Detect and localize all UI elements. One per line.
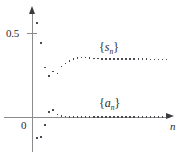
data-point — [40, 42, 42, 44]
data-point — [113, 58, 115, 60]
data-point — [154, 116, 156, 118]
data-point — [121, 116, 123, 118]
data-point — [77, 57, 79, 59]
data-point — [69, 60, 71, 62]
data-point — [138, 58, 140, 60]
data-point — [77, 116, 79, 118]
data-point — [129, 58, 131, 60]
data-point — [57, 73, 59, 75]
data-point — [109, 58, 111, 60]
data-point — [138, 116, 140, 118]
data-point — [85, 57, 87, 59]
data-point — [65, 63, 67, 65]
data-point — [40, 136, 42, 138]
data-point — [105, 116, 107, 118]
data-point — [117, 58, 119, 60]
data-point — [48, 111, 50, 113]
series-label-sn: {sn} — [99, 40, 119, 56]
data-point — [105, 58, 107, 60]
data-point — [158, 59, 160, 61]
data-point — [113, 116, 115, 118]
data-point — [44, 67, 46, 69]
data-point — [117, 116, 119, 118]
data-point — [158, 116, 160, 118]
data-point — [81, 57, 83, 59]
data-point — [101, 116, 103, 118]
data-point — [93, 58, 95, 60]
data-point — [52, 71, 54, 73]
data-point — [85, 116, 87, 118]
data-point — [73, 116, 75, 118]
data-point — [142, 116, 144, 118]
data-point — [73, 58, 75, 60]
data-point — [65, 116, 67, 118]
data-point — [97, 58, 99, 60]
data-point — [146, 58, 148, 60]
data-point — [129, 116, 131, 118]
data-point — [133, 58, 135, 60]
data-point — [89, 57, 91, 59]
data-point — [89, 116, 91, 118]
y-axis-arrow-icon — [29, 6, 35, 14]
y-axis-tick-half — [27, 33, 37, 34]
data-point — [44, 124, 46, 126]
data-point — [101, 58, 103, 60]
data-point — [125, 58, 127, 60]
data-point — [52, 109, 54, 111]
sn-close-brace: } — [113, 40, 119, 54]
data-point — [162, 116, 164, 118]
data-point — [142, 58, 144, 60]
data-point — [69, 116, 71, 118]
data-point — [93, 116, 95, 118]
data-point — [125, 116, 127, 118]
data-point — [97, 116, 99, 118]
y-tick-label-0: 0 — [21, 119, 26, 131]
data-point — [61, 66, 63, 68]
an-close-brace: } — [115, 96, 121, 110]
data-point — [121, 58, 123, 60]
sequence-scatter-plot: 0.5 0 n {sn} {an} — [0, 0, 184, 155]
data-point — [109, 116, 111, 118]
data-point — [146, 116, 148, 118]
data-point — [57, 114, 59, 116]
y-tick-label-0-5: 0.5 — [6, 27, 19, 39]
data-point — [150, 116, 152, 118]
series-label-an: {an} — [99, 96, 120, 112]
data-point — [150, 59, 152, 61]
data-point — [162, 59, 164, 61]
data-point — [154, 59, 156, 61]
data-point — [61, 115, 63, 117]
data-point — [36, 137, 38, 139]
data-point — [48, 75, 50, 77]
data-point — [133, 116, 135, 118]
x-axis-label-n: n — [170, 120, 176, 132]
data-point — [81, 116, 83, 118]
data-point — [36, 22, 38, 24]
data-point — [166, 116, 168, 118]
data-point — [166, 59, 168, 61]
